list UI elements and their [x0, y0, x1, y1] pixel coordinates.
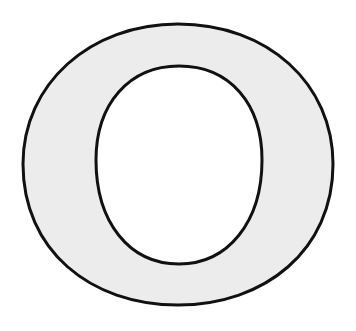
letter-o-shape [23, 24, 333, 305]
letter-o-graphic [0, 0, 356, 331]
letter-o-figure [0, 0, 356, 331]
